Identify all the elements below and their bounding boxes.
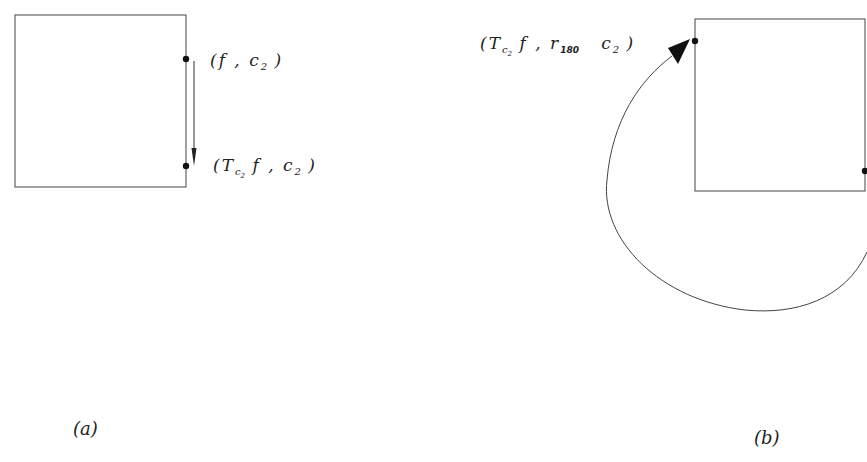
separator: , [528, 33, 550, 53]
point-Tf-c2 [183, 163, 189, 169]
subscript-2: 2 [295, 166, 301, 177]
subscript-2: 2 [261, 61, 267, 72]
point-start [862, 168, 867, 174]
caption-b: (b) [754, 427, 780, 448]
paren-open: ( [210, 50, 219, 70]
paren-open: ( [480, 33, 489, 53]
symbol-f: f [512, 33, 528, 53]
symbol-f: f [245, 155, 261, 175]
subscript-180: 180 [560, 45, 579, 55]
symbol-r: r [550, 33, 560, 53]
symbol-T: T [222, 155, 235, 175]
square-a [15, 15, 186, 187]
rotation-arc [606, 56, 867, 311]
separator: , [261, 155, 283, 175]
symbol-c: c [283, 155, 295, 175]
rotation-arrowhead-icon [668, 39, 690, 64]
symbol-c: c [249, 50, 261, 70]
panel-b [606, 19, 867, 311]
point-f-c2 [183, 56, 189, 62]
point-Tf-r180c2 [692, 38, 698, 44]
symbol-T: T [489, 33, 502, 53]
paren-close: ) [274, 50, 283, 70]
paren-open: ( [213, 155, 222, 175]
paren-close: ) [308, 155, 317, 175]
subscript-c2: c2 [235, 166, 245, 177]
symbol-f: f [219, 50, 227, 70]
separator: , [227, 50, 249, 70]
caption-a: (a) [73, 418, 98, 439]
paren-close: ) [626, 33, 635, 53]
panel-a [15, 15, 197, 187]
diagram-canvas: (f , c2 ) (Tc2 f , c2 ) (Tc2 f , r180 c2… [0, 0, 867, 462]
subscript-2: 2 [613, 44, 619, 55]
diagram-svg [0, 0, 867, 462]
label-Tf-r180c2: (Tc2 f , r180 c2 ) [480, 33, 635, 58]
square-b [695, 19, 865, 191]
label-Tf-c2: (Tc2 f , c2 ) [213, 155, 317, 180]
subscript-c2: c2 [502, 44, 512, 55]
translation-arrowhead-icon [192, 148, 197, 166]
label-f-c2: (f , c2 ) [210, 50, 283, 72]
symbol-c: c [601, 33, 613, 53]
